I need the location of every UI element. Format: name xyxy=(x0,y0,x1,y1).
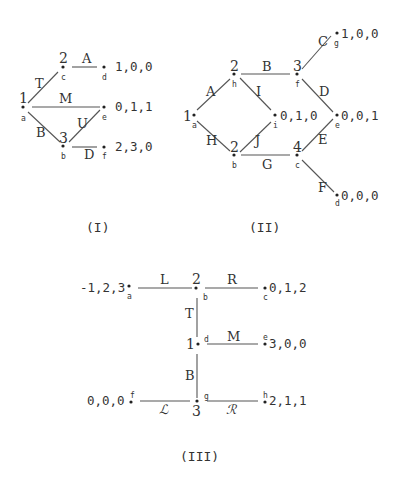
edge-label: B xyxy=(36,125,46,140)
edge-label: T xyxy=(35,76,44,91)
payoff: 2,1,1 xyxy=(269,393,307,408)
player-label: 3 xyxy=(192,403,201,419)
node-letter: g xyxy=(204,392,209,401)
node-letter: b xyxy=(61,152,66,161)
node-letter: d xyxy=(335,199,340,208)
edge-label: ℛ xyxy=(226,402,238,417)
edge-label: L xyxy=(160,272,169,287)
node-g xyxy=(335,31,338,34)
node-d xyxy=(196,342,199,345)
node-letter: h xyxy=(263,391,268,400)
payoff: 1,0,0 xyxy=(341,26,379,41)
edge-label: D xyxy=(319,84,329,99)
node-letter: i xyxy=(273,121,278,130)
node-letter: d xyxy=(102,73,107,82)
node-h xyxy=(263,400,266,403)
caption: (II) xyxy=(249,220,280,235)
edge-label: M xyxy=(59,91,72,106)
payoff: 0,1,0 xyxy=(280,108,318,123)
player-label: 2 xyxy=(230,139,239,155)
payoff: 3,0,0 xyxy=(269,336,307,351)
node-letter: a xyxy=(127,292,132,301)
node-e xyxy=(335,113,338,116)
node-letter: e xyxy=(335,121,340,130)
edge-label: T xyxy=(185,306,194,321)
node-letter: f xyxy=(102,152,107,161)
player-label: 3 xyxy=(293,58,302,74)
node-f xyxy=(129,400,132,403)
payoff: 0,0,1 xyxy=(341,108,379,123)
payoff: -1,2,3 xyxy=(80,280,125,295)
player-label: 1 xyxy=(183,108,192,124)
edge-label: M xyxy=(227,329,240,344)
edge-label: F xyxy=(318,180,327,195)
payoff: 0,1,2 xyxy=(269,280,307,295)
node-a xyxy=(192,113,195,116)
payoff: 2,3,0 xyxy=(115,139,153,154)
player-label: 3 xyxy=(59,130,68,146)
edge-label: A xyxy=(205,84,216,99)
edge-label: H xyxy=(206,133,217,148)
diagram-2: 1 2 2 3 4 a h b i f c g e d A H B I J G … xyxy=(183,26,379,235)
diagram-3: 2 1 3 a b c d e g f h L R T M B ℒ ℛ -1,2… xyxy=(80,271,307,464)
edge-label: U xyxy=(77,116,88,131)
payoff: 1,0,0 xyxy=(115,59,153,74)
edge-label: B xyxy=(185,368,195,383)
node-letter: b xyxy=(203,293,208,302)
edge-label: R xyxy=(227,272,238,287)
node-letter: f xyxy=(295,80,300,89)
node-e xyxy=(102,105,105,108)
node-i xyxy=(273,113,276,116)
node-letter: b xyxy=(232,161,237,170)
player-label: 2 xyxy=(192,271,201,287)
edge-label: G xyxy=(262,157,272,172)
node-letter: e xyxy=(102,113,107,122)
caption: (I) xyxy=(86,220,109,235)
caption: (III) xyxy=(180,449,219,464)
game-trees-figure: 1 2 3 a c b d e f T A M B U D 1,0,0 0,1,… xyxy=(0,0,404,485)
node-letter: c xyxy=(61,73,66,82)
edge-label: I xyxy=(256,84,261,99)
node-letter: f xyxy=(130,391,135,400)
node-letter: a xyxy=(21,114,26,123)
node-d xyxy=(335,193,338,196)
node-c xyxy=(263,286,266,289)
node-letter: c xyxy=(263,293,268,302)
node-letter: d xyxy=(204,335,209,344)
node-letter: e xyxy=(263,333,268,342)
edge-label: C xyxy=(318,34,328,49)
payoff: 0,0,0 xyxy=(87,393,125,408)
edge-label: D xyxy=(84,147,94,162)
node-letter: c xyxy=(295,161,300,170)
node-e xyxy=(263,342,266,345)
player-label: 2 xyxy=(230,58,239,74)
edge-label: A xyxy=(81,51,92,66)
edge-label: E xyxy=(318,132,328,147)
node-a xyxy=(127,284,130,287)
player-label: 1 xyxy=(186,336,195,352)
player-label: 2 xyxy=(59,50,68,66)
player-label: 4 xyxy=(293,139,302,155)
node-d xyxy=(102,65,105,68)
node-letter: a xyxy=(192,121,197,130)
player-label: 1 xyxy=(19,90,28,106)
node-letter: g xyxy=(334,39,339,48)
node-letter: h xyxy=(232,80,237,89)
payoff: 0,0,0 xyxy=(341,188,379,203)
diagram-1: 1 2 3 a c b d e f T A M B U D 1,0,0 0,1,… xyxy=(19,50,153,235)
edge-label: B xyxy=(262,59,272,74)
edge-label: ℒ xyxy=(159,402,169,417)
edge-label: J xyxy=(253,133,260,148)
node-f xyxy=(102,145,105,148)
payoff: 0,1,1 xyxy=(115,99,153,114)
